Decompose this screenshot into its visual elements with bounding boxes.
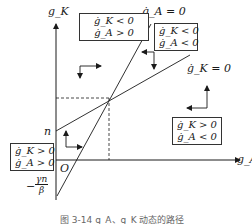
ga-intercept-minus: − [26, 181, 35, 192]
ga-nullcline [57, 24, 151, 196]
y-axis-label: g_K [48, 6, 69, 17]
region-box-bottom-right: ġ_K > 0 ġ_A < 0 [172, 117, 222, 145]
region-bottom-left-gk: ġ_K > 0 [15, 145, 49, 157]
ga-intercept-fraction: γn β [35, 174, 48, 195]
arrows-top-left [80, 66, 101, 78]
region-bottom-right-ga: ġ_A < 0 [177, 131, 217, 143]
region-bottom-right-gk: ġ_K > 0 [177, 119, 217, 131]
arrows-bottom-right [187, 86, 207, 108]
region-bottom-left-ga: ġ_A > 0 [15, 157, 49, 169]
ga-intercept-denominator: β [35, 185, 48, 195]
region-top-right-ga: ġ_A < 0 [159, 37, 193, 49]
region-box-top-left: ġ_K < 0 ġ_A > 0 [79, 13, 149, 41]
region-box-bottom-left: ġ_K > 0 ġ_A > 0 [10, 143, 54, 171]
ga-intercept-numerator: γn [35, 174, 48, 185]
x-axis-label: g_A [237, 154, 252, 165]
arrows-bottom-left [66, 131, 82, 147]
gk-nullcline-label: ġ_K = 0 [187, 63, 231, 74]
region-box-top-right: ġ_K < 0 ġ_A < 0 [154, 23, 198, 51]
gk-nullcline [56, 55, 190, 131]
region-top-right-gk: ġ_K < 0 [159, 25, 193, 37]
arrows-top-right [142, 52, 154, 69]
origin-label: O [60, 163, 69, 174]
gk-intercept-label: n [44, 126, 51, 137]
region-top-left-gk: ġ_K < 0 [84, 15, 144, 27]
region-top-left-ga: ġ_A > 0 [84, 27, 144, 39]
figure-caption: 图 3-14 g_A、g_K 动态的路径 [60, 213, 185, 224]
